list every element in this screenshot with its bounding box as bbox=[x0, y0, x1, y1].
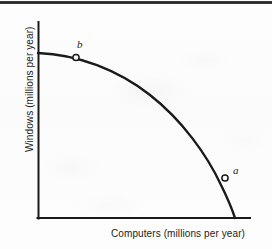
point-label-a: a bbox=[233, 164, 239, 176]
y-axis-label: Windows (millions per year) bbox=[24, 26, 35, 152]
x-axis-label: Computers (millions per year) bbox=[105, 228, 251, 239]
point-label-b: b bbox=[77, 38, 83, 50]
ppf-figure: b a Computers (millions per year) Window… bbox=[0, 0, 272, 249]
point-marker-b bbox=[73, 54, 79, 60]
ppf-curve bbox=[38, 53, 235, 218]
point-marker-a bbox=[222, 175, 228, 181]
plot-area bbox=[0, 0, 272, 249]
